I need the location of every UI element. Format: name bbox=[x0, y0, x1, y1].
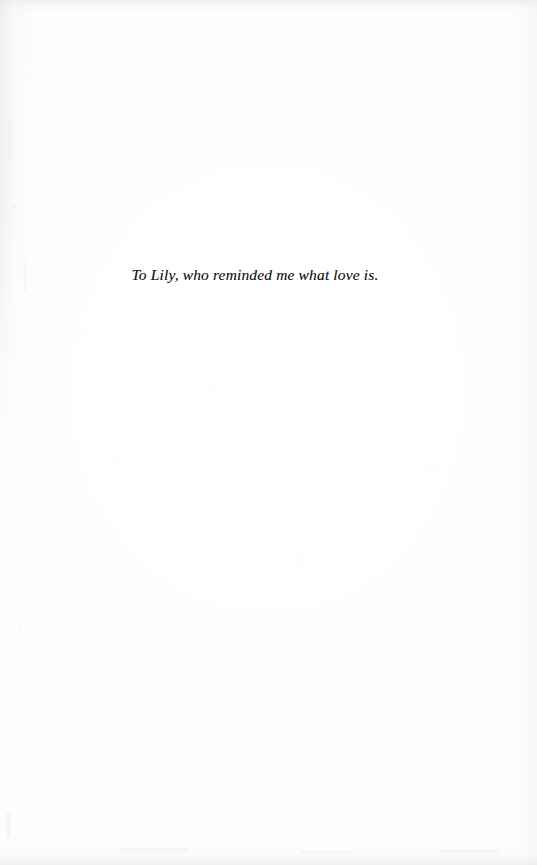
dedication-block: To Lily, who reminded me what love is. bbox=[0, 264, 510, 286]
dedication-page: To Lily, who reminded me what love is. bbox=[0, 0, 537, 865]
scan-edge-shading-top bbox=[0, 0, 537, 14]
page-edge-falloff bbox=[511, 0, 537, 865]
scan-speckle-noise bbox=[0, 0, 537, 865]
binding-gutter-shadow bbox=[0, 0, 34, 470]
scan-edge-shading-bottom bbox=[0, 847, 537, 865]
dedication-text: To Lily, who reminded me what love is. bbox=[132, 264, 379, 286]
paper-tone-layer bbox=[0, 0, 537, 865]
